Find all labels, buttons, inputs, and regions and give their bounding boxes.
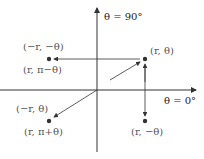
label-lower-right: (r, −θ) <box>131 127 163 137</box>
arrow-to-lower-left <box>54 90 97 117</box>
point-lower-left <box>47 119 51 123</box>
label-lower-left-bottom: (r, π+θ) <box>24 127 63 137</box>
label-original: (r, θ) <box>150 46 174 56</box>
point-upper-left <box>47 57 51 61</box>
point-lower-right <box>143 119 147 123</box>
label-upper-left-bottom: (r, π−θ) <box>23 65 62 75</box>
vertical-axis-label: θ = 90° <box>104 12 142 22</box>
label-lower-left-top: (−r, θ) <box>16 104 48 114</box>
horizontal-axis-label: θ = 0° <box>164 96 196 106</box>
point-original <box>143 57 147 61</box>
arrow-origin-to-point <box>110 62 140 80</box>
label-upper-left-top: (−r, −θ) <box>23 42 64 52</box>
